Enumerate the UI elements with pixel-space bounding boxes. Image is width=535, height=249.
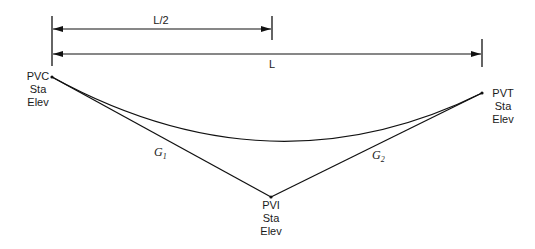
half-length-label: L/2 xyxy=(153,14,168,26)
pvc-name: PVC xyxy=(20,70,56,83)
vertical-curve xyxy=(52,77,482,141)
pvi-elevation: Elev xyxy=(253,225,289,238)
grade-g2-label: G2 xyxy=(372,148,385,164)
pvt-elevation: Elev xyxy=(485,113,521,126)
pvt-station: Sta xyxy=(485,100,521,113)
pvt-label: PVT Sta Elev xyxy=(485,87,521,126)
grade-g1-tangent xyxy=(52,77,271,197)
pvc-elevation: Elev xyxy=(20,96,56,109)
pvi-station: Sta xyxy=(253,212,289,225)
grade-g2-tangent xyxy=(271,93,482,197)
pvi-name: PVI xyxy=(253,199,289,212)
pvt-point xyxy=(480,91,483,94)
grade-g1-label: G1 xyxy=(154,145,167,161)
pvt-name: PVT xyxy=(485,87,521,100)
pvc-label: PVC Sta Elev xyxy=(20,70,56,109)
pvi-label: PVI Sta Elev xyxy=(253,199,289,238)
full-length-label: L xyxy=(269,58,275,70)
pvc-station: Sta xyxy=(20,83,56,96)
